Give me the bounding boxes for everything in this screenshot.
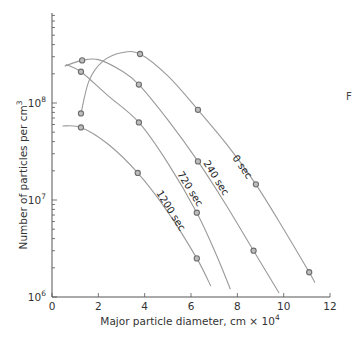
data-point-marker (135, 170, 140, 175)
curves (62, 51, 315, 293)
x-tick-label: 12 (323, 300, 336, 312)
series-curve-720sec (66, 64, 231, 289)
data-point-marker (194, 256, 199, 261)
curve-label-720sec: 720 sec (175, 169, 205, 208)
curve-label-1200sec: 1200 sec (154, 188, 187, 232)
x-tick-label: 4 (141, 300, 148, 312)
x-tick-label: 8 (234, 300, 241, 312)
series-curve-1200sec (62, 126, 210, 286)
data-point-marker (194, 210, 199, 215)
data-point-marker (253, 182, 258, 187)
data-point-marker (136, 82, 141, 87)
data-point-marker (78, 69, 83, 74)
y-axis-title: Number of particles per cm3 (15, 100, 29, 249)
series-curve-0sec (81, 51, 315, 282)
data-point-marker (195, 107, 200, 112)
chart: 106107108024681012 0 sec 240 sec 720 sec… (0, 0, 357, 355)
curve-label-0sec: 0 sec (230, 153, 254, 181)
data-point-marker (307, 270, 312, 275)
data-point-marker (78, 125, 83, 130)
y-tick-label: 106 (28, 289, 46, 303)
data-point-marker (251, 248, 256, 253)
curve-label-240sec: 240 sec (201, 158, 231, 197)
y-tick-label: 107 (28, 192, 46, 206)
data-point-marker (78, 111, 83, 116)
data-point-marker (195, 159, 200, 164)
data-markers (78, 51, 311, 274)
cropped-letter: F (346, 91, 352, 102)
x-tick-label: 0 (49, 300, 56, 312)
x-axis-title: Major particle diameter, cm × 104 (100, 313, 280, 327)
data-point-marker (136, 120, 141, 125)
data-point-marker (80, 58, 85, 63)
y-tick-label: 108 (28, 95, 46, 109)
x-tick-label: 10 (277, 300, 290, 312)
data-point-marker (137, 51, 142, 56)
x-tick-label: 6 (188, 300, 195, 312)
x-tick-label: 2 (95, 300, 102, 312)
axes: 106107108024681012 (28, 13, 337, 312)
